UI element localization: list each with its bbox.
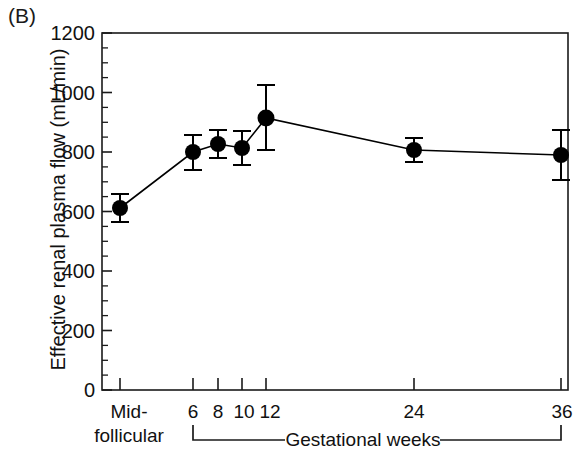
x-tick-label-week12: 12 (259, 401, 280, 422)
data-point-marker (234, 140, 250, 156)
data-point-marker (185, 144, 201, 160)
y-tick-labels: 0 200 400 600 800 1000 1200 (51, 22, 96, 401)
data-point-marker (112, 200, 128, 216)
data-point-marker (406, 142, 422, 158)
x-tick-label-week10: 10 (233, 401, 254, 422)
y-tick-label: 600 (62, 201, 95, 223)
data-point-markers (112, 110, 569, 217)
x-tick-label-week24: 24 (403, 401, 425, 422)
plot-frame (102, 33, 568, 390)
series-line (120, 118, 561, 208)
x-ticks (120, 378, 561, 390)
x-axis-title: Gestational weeks (285, 429, 440, 450)
y-tick-label: 0 (84, 379, 95, 401)
y-tick-label: 200 (62, 320, 95, 342)
y-tick-label: 800 (62, 141, 95, 163)
y-major-ticks (102, 33, 112, 390)
y-tick-label: 1000 (51, 82, 96, 104)
chart-svg: 0 200 400 600 800 1000 1200 Mid- follicu… (0, 0, 580, 451)
x-tick-label-week6: 6 (188, 401, 199, 422)
data-point-marker (210, 136, 226, 152)
y-tick-label: 1200 (51, 22, 96, 44)
figure-panel-b: (B) Effective renal plasma flow (mL/min) (0, 0, 580, 451)
x-tick-label-week36: 36 (551, 401, 572, 422)
y-tick-label: 400 (62, 260, 95, 282)
x-tick-label-week8: 8 (213, 401, 224, 422)
data-point-marker (553, 147, 569, 163)
x-tick-label-midfollicular-line1: Mid- (111, 401, 148, 422)
x-tick-label-midfollicular-line2: follicular (94, 425, 164, 446)
data-point-marker (258, 110, 275, 127)
